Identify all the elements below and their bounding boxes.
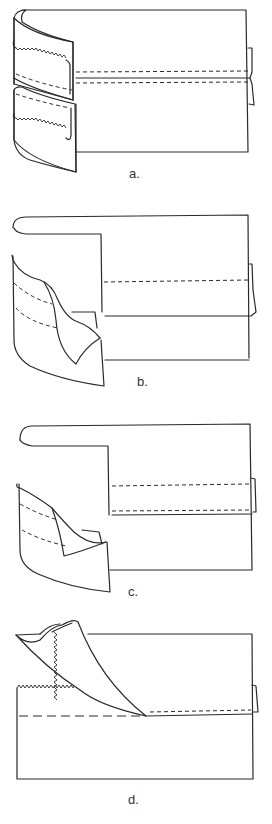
panel-a-drawing: [13, 10, 254, 172]
panel-c-label: c.: [128, 584, 138, 599]
panel-b-label: b.: [137, 374, 148, 389]
panel-d-drawing: [16, 621, 258, 779]
panel-a-label: a.: [129, 166, 140, 181]
panel-d-label: d.: [128, 792, 139, 807]
diagram-canvas: [0, 0, 272, 824]
panel-b-drawing: [12, 215, 256, 386]
panel-c-drawing: [17, 424, 256, 592]
